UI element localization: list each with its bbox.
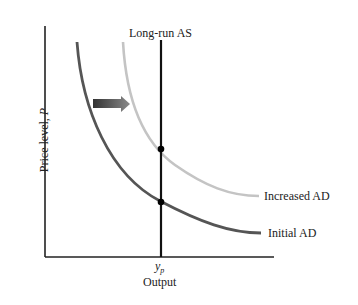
increased-ad-curve — [123, 42, 259, 196]
increased-ad-label: Increased AD — [264, 190, 330, 202]
potential-output-tick-label: yp — [155, 260, 164, 275]
ad-as-chart — [0, 0, 358, 305]
x-axis-label: Output — [143, 276, 176, 288]
y-axis-label: Price level, P — [38, 90, 50, 190]
y-axis-label-text: Price level, — [37, 115, 51, 172]
long-run-as-label: Long-run AS — [129, 27, 192, 39]
y-axis-variable: P — [37, 108, 51, 115]
equilibrium-point-increased — [158, 146, 165, 153]
initial-ad-label: Initial AD — [268, 227, 316, 239]
equilibrium-point-initial — [158, 199, 165, 206]
initial-ad-curve — [77, 42, 261, 233]
shift-right-arrow-icon — [93, 96, 130, 112]
